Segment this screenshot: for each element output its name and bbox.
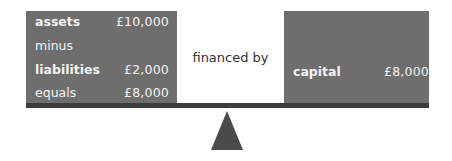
equals-row: equals £8,000	[35, 85, 169, 101]
capital-panel: capital £8,000	[284, 11, 429, 104]
assets-value: £10,000	[116, 14, 169, 30]
capital-label: capital	[293, 64, 341, 80]
capital-value: £8,000	[384, 64, 429, 80]
minus-row: minus	[35, 38, 169, 54]
equals-label: equals	[35, 85, 76, 101]
assets-row: assets £10,000	[35, 14, 169, 30]
financed-by-text: financed by	[177, 50, 284, 65]
minus-label: minus	[35, 38, 73, 54]
assets-panel: assets £10,000 minus liabilities £2,000 …	[26, 11, 177, 104]
fulcrum-triangle-icon	[211, 111, 243, 150]
liabilities-value: £2,000	[124, 62, 169, 78]
capital-row: capital £8,000	[293, 64, 429, 80]
liabilities-row: liabilities £2,000	[35, 62, 169, 78]
liabilities-label: liabilities	[35, 62, 100, 78]
equals-value: £8,000	[124, 85, 169, 101]
balance-beam	[26, 103, 429, 108]
assets-label: assets	[35, 14, 80, 30]
